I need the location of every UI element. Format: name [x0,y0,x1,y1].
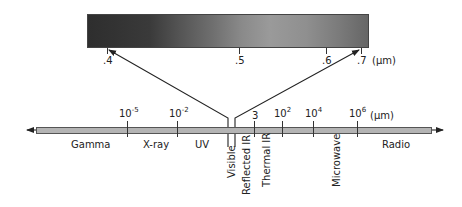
spectrum-tick-label: 102 [274,108,291,119]
spectrum-tick [282,121,283,137]
spectrum-tick [254,121,255,137]
region-label-gamma: Gamma [71,139,111,150]
spectrum-tick-label: 10-2 [169,108,189,119]
region-label-thermal-ir: Thermal IR [261,133,272,187]
spectrum-tick-label: 104 [305,108,322,119]
spectrum-tick-label: 106 [349,108,366,119]
region-label-microwave: Microwave [331,134,342,187]
spectrum-tick [357,121,358,137]
region-label-reflected-ir: Reflected IR [241,135,252,195]
region-label-uv: UV [195,139,209,150]
spectrum-tick-label: 3 [252,110,258,121]
region-label-radio: Radio [382,139,410,150]
spectrum-tick [127,121,128,137]
spectrum-unit-label: (µm) [370,110,394,121]
region-label-xray: X-ray [143,139,169,150]
region-label-visible: Visible [226,145,237,178]
spectrum-tick [177,121,178,137]
spectrum-tick-label: 10-5 [119,108,139,119]
spectrum-tick [313,121,314,137]
electromagnetic-spectrum-bar [36,127,432,134]
